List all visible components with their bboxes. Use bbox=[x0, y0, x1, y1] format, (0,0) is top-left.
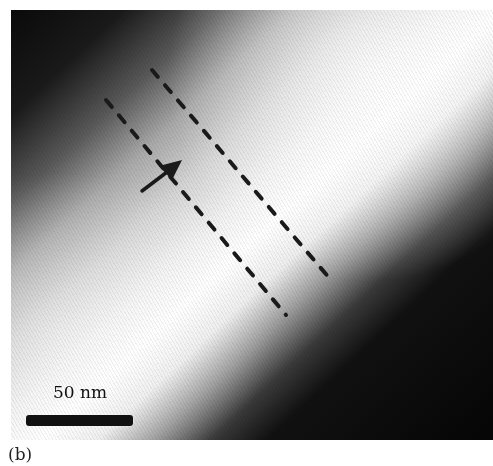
panel-label: (b) bbox=[8, 444, 32, 464]
scale-bar-label: 50 nm bbox=[53, 382, 107, 402]
micrograph-image bbox=[11, 10, 493, 440]
dashed-line-upper bbox=[152, 70, 331, 280]
scale-bar bbox=[26, 415, 133, 426]
annotation-overlay bbox=[11, 10, 493, 440]
dashed-line-lower bbox=[106, 100, 286, 315]
